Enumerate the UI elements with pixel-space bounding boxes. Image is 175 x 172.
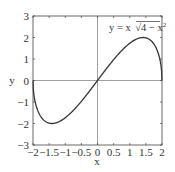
svg-text:y = x √4 − x2: y = x √4 − x2 bbox=[109, 21, 167, 33]
y-tick-label: 3 bbox=[24, 10, 30, 22]
equation-annotation: y = x √4 − x2 bbox=[107, 19, 167, 35]
x-tick-label: −1.5 bbox=[39, 146, 59, 158]
x-tick-label: 2 bbox=[159, 146, 165, 158]
x-tick-label: −0.5 bbox=[71, 146, 91, 158]
x-tick-label: 1 bbox=[127, 146, 133, 158]
y-tick-label: 2 bbox=[24, 32, 30, 44]
x-tick-label: −1 bbox=[59, 146, 71, 158]
x-tick-label: 1.5 bbox=[139, 146, 153, 158]
x-tick-label: 0.5 bbox=[107, 146, 121, 158]
y-axis-label: y bbox=[9, 74, 15, 86]
equation-exponent: 2 bbox=[163, 21, 167, 29]
y-tick-label: −1 bbox=[17, 96, 29, 108]
y-tick-label: −2 bbox=[17, 118, 29, 130]
function-plot: −2−1.5−1−0.500.511.52 −3−2−10123 x y y =… bbox=[0, 0, 175, 172]
equation-radicand: 4 − x bbox=[141, 22, 163, 33]
y-tick-label: 1 bbox=[24, 53, 30, 65]
y-tick-label: −3 bbox=[17, 139, 29, 151]
equation-prefix: y = x bbox=[109, 22, 131, 33]
x-axis-label: x bbox=[94, 155, 100, 167]
y-tick-label: 0 bbox=[24, 75, 30, 87]
